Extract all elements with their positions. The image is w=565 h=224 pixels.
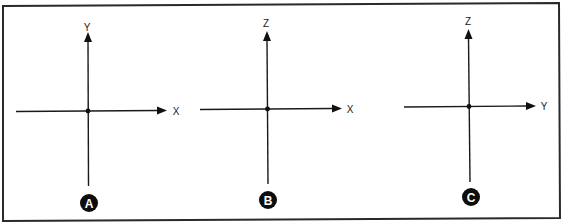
panel-b-badge-letter: B	[264, 194, 273, 208]
panel-c-horizontal-arrow-icon	[526, 102, 536, 110]
panel-b-vertical-axis	[267, 40, 268, 184]
panel-a-vertical-arrow-icon	[84, 32, 92, 42]
panel-c: Z Y C	[404, 16, 548, 206]
panel-a-vertical-axis	[88, 41, 89, 186]
panel-a: Y X A	[16, 22, 180, 212]
panel-b-vertical-label: Z	[263, 18, 269, 29]
panel-c-badge-letter: C	[467, 191, 476, 205]
panel-a-horizontal-label: X	[173, 106, 180, 117]
panel-b-horizontal-label: X	[347, 104, 354, 115]
panel-a-badge-letter: A	[85, 197, 94, 211]
panel-c-badge: C	[462, 188, 480, 206]
panel-c-vertical-label: Z	[465, 16, 471, 27]
panel-c-vertical-arrow-icon	[465, 29, 473, 39]
panel-a-horizontal-arrow-icon	[157, 107, 167, 115]
panel-c-origin-dot	[467, 104, 472, 109]
panel-c-vertical-axis	[469, 38, 471, 182]
panel-a-vertical-label: Y	[84, 22, 91, 33]
panel-b-badge: B	[259, 191, 277, 209]
axes-diagram: Y X A Z X B Z Y C	[0, 0, 565, 224]
panel-b-vertical-arrow-icon	[263, 31, 271, 41]
panel-b-horizontal-arrow-icon	[332, 105, 342, 113]
panel-a-badge: A	[80, 194, 98, 212]
panel-a-origin-dot	[86, 109, 91, 114]
panel-c-horizontal-label: Y	[541, 101, 548, 112]
panel-b-origin-dot	[265, 107, 270, 112]
panel-b: Z X B	[200, 18, 354, 209]
panel-c-horizontal-axis	[404, 106, 527, 107]
